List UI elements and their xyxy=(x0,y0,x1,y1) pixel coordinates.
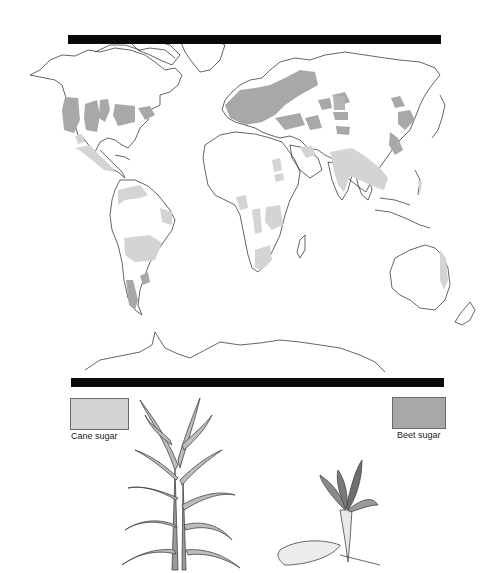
sugar-cane-plant-icon xyxy=(122,398,240,570)
illustrations xyxy=(0,390,499,573)
world-map xyxy=(0,0,499,380)
top-title-bar xyxy=(68,35,441,44)
sugar-beet-root-icon xyxy=(278,460,380,565)
bottom-title-bar xyxy=(71,378,444,387)
land-outlines xyxy=(30,38,475,372)
